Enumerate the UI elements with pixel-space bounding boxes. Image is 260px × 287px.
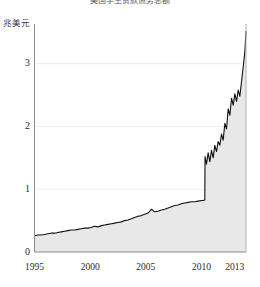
y-tick-label: 3 xyxy=(16,57,30,68)
chart-svg xyxy=(0,0,260,287)
x-tick-label: 1995 xyxy=(15,262,55,272)
chart-container: 美国学生贷款债务总额 兆美元 0123 19952000200520102013 xyxy=(0,0,260,287)
x-tick-label: 2013 xyxy=(215,262,255,272)
y-tick-label: 0 xyxy=(16,246,30,257)
area-fill xyxy=(35,31,247,252)
y-tick-label: 1 xyxy=(16,183,30,194)
y-tick-label: 2 xyxy=(16,120,30,131)
x-tick-label: 2005 xyxy=(126,262,166,272)
plot-area xyxy=(0,0,260,287)
x-tick-label: 2000 xyxy=(70,262,110,272)
data-area xyxy=(35,31,247,252)
